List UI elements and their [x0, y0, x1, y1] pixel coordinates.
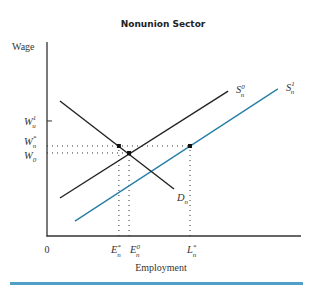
curve-label-s-n-0: S0n: [236, 83, 245, 99]
x-tick-label-en0: E0n: [129, 243, 140, 259]
curves: S0nS1nDn: [60, 80, 295, 221]
x-axis-label: Employment: [135, 262, 187, 273]
bottom-rule: [10, 282, 303, 285]
y-tick-label-wu1: W1u: [24, 114, 36, 130]
x-tick-label-ln_star: L*n: [186, 243, 197, 259]
axes: [47, 42, 302, 237]
nonunion-sector-chart: Nonunion Sector Wage Employment 0 S0nS1n…: [0, 0, 314, 287]
point-demand-at-wn: [117, 144, 121, 148]
curve-label-s-n-1: S1n: [286, 80, 295, 96]
y-axis-label: Wage: [12, 41, 35, 52]
curve-label-d-n: Dn: [176, 192, 189, 206]
y-tick-label-w0: W0: [24, 150, 37, 164]
points: [117, 144, 192, 155]
curve-s-n-0: [60, 91, 228, 198]
x-tick-label-en_star: E*n: [110, 243, 121, 259]
chart-title: Nonunion Sector: [121, 19, 206, 29]
origin-label: 0: [45, 244, 50, 255]
point-equilibrium-s0-d: [127, 151, 131, 155]
y-tick-label-wn: W*n: [24, 134, 37, 150]
point-supply-s1-at-wn: [188, 144, 192, 148]
